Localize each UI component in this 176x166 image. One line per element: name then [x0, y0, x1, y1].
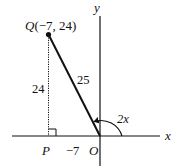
vertical-side-label: 24	[32, 82, 45, 96]
diagram-canvas: Q(−7, 24) y x 25 24 2x P −7 O	[0, 0, 176, 166]
point-q-label: Q(−7, 24)	[25, 18, 76, 33]
y-axis-label: y	[92, 0, 100, 15]
right-angle-marker	[49, 129, 57, 136]
segment-oq	[49, 35, 101, 137]
hypotenuse-label: 25	[77, 73, 90, 87]
x-axis-label: x	[164, 128, 171, 143]
angle-label: 2x	[117, 112, 129, 126]
point-p-label: P	[41, 143, 50, 158]
origin-label: O	[89, 143, 99, 158]
horizontal-side-label: −7	[66, 144, 79, 158]
